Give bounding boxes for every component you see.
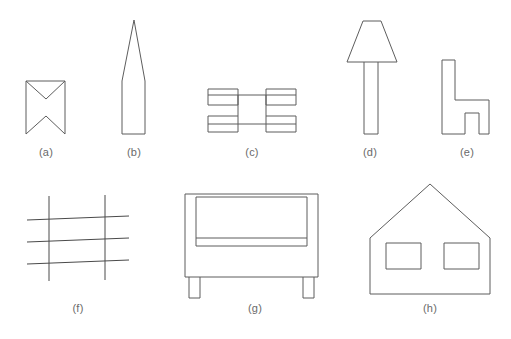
grid-horizontal-line-3 bbox=[27, 260, 129, 264]
figure-a-bowtie-notched-rectangle bbox=[26, 81, 65, 134]
figure-label-c: (c) bbox=[245, 146, 258, 158]
house-outline bbox=[370, 184, 490, 294]
grid-horizontal-line-2 bbox=[27, 238, 129, 242]
bowtie-top-notch bbox=[26, 81, 65, 99]
corner-box-top-left bbox=[208, 89, 238, 105]
figure-label-g: (g) bbox=[248, 302, 262, 314]
figure-label-e: (e) bbox=[460, 146, 474, 158]
sofa-backrest-panel bbox=[196, 197, 307, 246]
figure-h-house-with-two-windows bbox=[370, 184, 490, 294]
figure-sheet: (a) (b) (c) (d) (e) (f) (g) (h) bbox=[0, 0, 511, 339]
figure-e-chair-side-view bbox=[442, 60, 489, 134]
sofa-body bbox=[185, 194, 318, 277]
corner-box-top-right bbox=[266, 89, 296, 105]
lamp-shade bbox=[347, 21, 397, 62]
figure-c-beam-with-four-corner-boxes bbox=[208, 89, 296, 132]
sofa-leg-left bbox=[189, 277, 200, 298]
figure-label-f: (f) bbox=[73, 302, 84, 314]
house-window-left bbox=[386, 243, 421, 269]
bowtie-outline bbox=[26, 81, 65, 134]
figure-label-d: (d) bbox=[363, 146, 377, 158]
spike-outline bbox=[122, 20, 145, 134]
chair-outline bbox=[442, 60, 489, 134]
lamp-post bbox=[364, 62, 378, 134]
figure-drawings bbox=[0, 0, 511, 339]
figure-g-armchair-sofa-front-view bbox=[185, 194, 318, 298]
sofa-leg-right bbox=[303, 277, 314, 298]
figure-f-grid-of-lines bbox=[27, 195, 129, 281]
house-window-right bbox=[444, 243, 479, 269]
figure-label-h: (h) bbox=[423, 302, 437, 314]
figure-d-table-lamp bbox=[347, 21, 397, 134]
grid-horizontal-line-1 bbox=[27, 216, 129, 220]
figure-b-tall-spike-rocket bbox=[122, 20, 145, 134]
figure-label-a: (a) bbox=[39, 146, 53, 158]
figure-label-b: (b) bbox=[127, 146, 141, 158]
